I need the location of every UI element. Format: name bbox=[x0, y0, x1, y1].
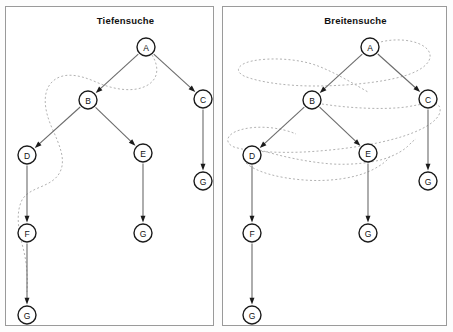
tree-edge-B-D bbox=[262, 107, 304, 146]
node-label-D: D bbox=[24, 151, 30, 161]
node-dfs-A[interactable]: A bbox=[137, 38, 155, 56]
node-dfs-F[interactable]: F bbox=[18, 224, 36, 242]
node-label-B: B bbox=[309, 96, 315, 106]
node-bfs-F[interactable]: F bbox=[243, 224, 261, 242]
node-bfs-Gf[interactable]: G bbox=[243, 306, 261, 324]
node-bfs-Gc[interactable]: G bbox=[419, 172, 437, 190]
node-label-F: F bbox=[24, 229, 29, 239]
tree-edge-A-C bbox=[378, 54, 418, 90]
arrow-head-F-Gf bbox=[25, 298, 30, 305]
arrow-head-F-Gf bbox=[250, 298, 255, 305]
node-label-Ge: G bbox=[140, 229, 147, 239]
node-label-Ge: G bbox=[365, 229, 372, 239]
node-label-A: A bbox=[143, 43, 149, 53]
node-bfs-D[interactable]: D bbox=[243, 146, 261, 164]
node-label-C: C bbox=[200, 95, 206, 105]
graph-drawing-layer: ABCDEGFGG ABCDEGFGG bbox=[0, 0, 453, 332]
node-dfs-E[interactable]: E bbox=[134, 144, 152, 162]
node-label-B: B bbox=[85, 96, 91, 106]
node-label-Gf: G bbox=[249, 311, 256, 321]
node-dfs-C[interactable]: C bbox=[194, 90, 212, 108]
node-dfs-D[interactable]: D bbox=[18, 146, 36, 164]
node-label-A: A bbox=[367, 43, 373, 53]
node-label-Gf: G bbox=[24, 311, 31, 321]
bfs-trace-path-level1 bbox=[238, 40, 430, 92]
bfs-trace-path-level2 bbox=[228, 103, 440, 152]
tree-edge-B-D bbox=[37, 107, 80, 146]
node-label-Gc: G bbox=[425, 177, 432, 187]
node-label-E: E bbox=[365, 149, 371, 159]
node-dfs-B[interactable]: B bbox=[79, 91, 97, 109]
tree-edge-B-E bbox=[96, 107, 133, 143]
arrow-head-C-Gc bbox=[426, 164, 431, 171]
node-dfs-Gc[interactable]: G bbox=[194, 172, 212, 190]
node-label-C: C bbox=[425, 95, 431, 105]
tree-edge-B-E bbox=[320, 107, 358, 143]
arrow-head-D-F bbox=[25, 216, 30, 223]
arrow-head-E-Ge bbox=[141, 216, 146, 223]
node-dfs-Ge[interactable]: G bbox=[134, 224, 152, 242]
arrow-head-C-Gc bbox=[201, 164, 206, 171]
node-bfs-B[interactable]: B bbox=[303, 91, 321, 109]
tree-edge-A-B bbox=[98, 54, 138, 91]
node-label-F: F bbox=[249, 229, 254, 239]
node-bfs-A[interactable]: A bbox=[361, 38, 379, 56]
node-bfs-Ge[interactable]: G bbox=[359, 224, 377, 242]
arrow-head-D-F bbox=[250, 216, 255, 223]
figure-root: Tiefensuche Breitensuche ABCDEGFGG ABCDE… bbox=[0, 0, 453, 332]
node-label-D: D bbox=[249, 151, 255, 161]
node-dfs-Gf[interactable]: G bbox=[18, 306, 36, 324]
node-bfs-C[interactable]: C bbox=[419, 90, 437, 108]
dfs-tree-edges bbox=[25, 54, 206, 304]
node-label-E: E bbox=[140, 149, 146, 159]
tree-edge-A-C bbox=[154, 54, 193, 90]
arrow-head-E-Ge bbox=[366, 216, 371, 223]
node-label-Gc: G bbox=[200, 177, 207, 187]
bfs-trace-path-level3 bbox=[260, 139, 416, 164]
node-bfs-E[interactable]: E bbox=[359, 144, 377, 162]
